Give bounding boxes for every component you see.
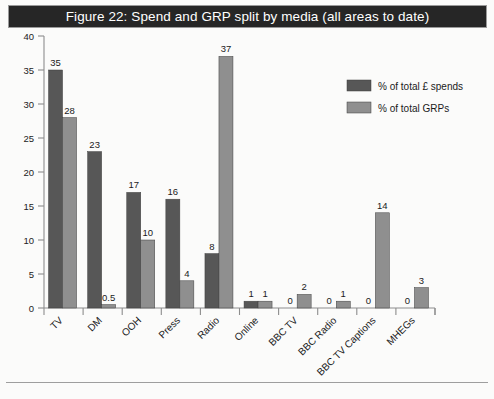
bar: [336, 301, 350, 308]
bar: [244, 301, 258, 308]
bar-value-label: 16: [168, 186, 179, 197]
bar: [63, 118, 77, 308]
page-title: Figure 22: Spend and GRP split by media …: [66, 9, 430, 24]
bar: [205, 254, 219, 308]
bar-value-label: 0: [405, 295, 410, 306]
legend-swatch: [347, 102, 371, 113]
y-axis-tick-label: 5: [29, 269, 34, 280]
chart-legend: % of total £ spends% of total GRPs: [347, 80, 463, 114]
bars-layer: [49, 56, 429, 308]
y-axis-tick-label: 25: [23, 133, 34, 144]
bar-value-label: 23: [89, 139, 100, 150]
y-axis-tick-label: 15: [23, 201, 34, 212]
bar-value-label: 17: [128, 179, 139, 190]
bar-value-label: 1: [341, 288, 346, 299]
y-axis-tick-label: 35: [23, 65, 34, 76]
x-axis-category-label: BBC TV: [266, 314, 299, 347]
bar-value-label: 1: [262, 288, 267, 299]
bar-value-label: 2: [302, 281, 307, 292]
bar-value-label: 0: [327, 295, 332, 306]
bar-value-label: 0: [288, 295, 293, 306]
chart-canvas: 0510152025303540 3528230.517101648371102…: [0, 28, 494, 380]
bar: [49, 70, 63, 308]
bar-value-label: 0: [366, 295, 371, 306]
y-axis-tick-label: 30: [23, 99, 34, 110]
bar: [141, 240, 155, 308]
bar: [414, 288, 428, 308]
bar-chart: 0510152025303540 3528230.517101648371102…: [0, 28, 494, 380]
bar: [297, 294, 311, 308]
bar: [180, 281, 194, 308]
x-axis-category-label: Online: [232, 314, 261, 343]
y-axis-tick-label: 0: [29, 303, 34, 314]
bar: [258, 301, 272, 308]
x-axis-category-label: Press: [156, 315, 182, 341]
bar-value-label: 0.5: [102, 292, 115, 303]
y-axis-tick-label: 20: [23, 167, 34, 178]
x-axis-category-label: Radio: [195, 314, 222, 341]
legend-swatch: [347, 80, 371, 91]
bar: [166, 199, 180, 308]
figure-title-bar: Figure 22: Spend and GRP split by media …: [8, 5, 487, 28]
bar: [219, 56, 233, 308]
x-axis-category-label: MHEGs: [384, 315, 417, 348]
y-axis-tick-label: 40: [23, 31, 34, 42]
y-axis: 0510152025303540: [23, 31, 44, 314]
bar-value-label: 37: [221, 43, 232, 54]
bar: [102, 305, 116, 308]
bar-value-label: 1: [248, 288, 253, 299]
x-axis: [44, 308, 435, 315]
bar-value-label: 28: [64, 105, 75, 116]
bar: [127, 192, 141, 308]
bar: [375, 213, 389, 308]
bar: [88, 152, 102, 308]
bar-value-label: 10: [142, 227, 153, 238]
legend-label: % of total £ spends: [378, 81, 463, 92]
footer-divider: [6, 382, 488, 383]
y-axis-tick-label: 10: [23, 235, 34, 246]
bar-value-label: 4: [184, 268, 189, 279]
category-labels-layer: TVDMOOHPressRadioOnlineBBC TVBBC RadioBB…: [48, 314, 417, 377]
bar-value-label: 3: [419, 275, 424, 286]
legend-label: % of total GRPs: [378, 103, 449, 114]
x-axis-category-label: OOH: [119, 315, 143, 339]
x-axis-category-label: DM: [85, 315, 104, 334]
bar-value-label: 14: [377, 200, 388, 211]
bar-value-label: 8: [209, 241, 214, 252]
x-axis-category-label: TV: [48, 314, 65, 331]
bar-value-label: 35: [50, 57, 61, 68]
